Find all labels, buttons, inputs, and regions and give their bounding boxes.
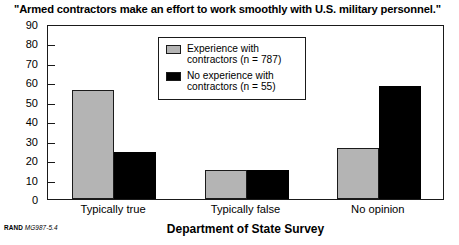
- bar: [114, 152, 156, 199]
- legend-label: Experience with contractors (n = 787): [187, 43, 281, 66]
- chart-title: "Armed contractors make an effort to wor…: [14, 3, 454, 15]
- legend-label: No experience with contractors (n = 55): [187, 70, 276, 93]
- bar: [337, 148, 379, 199]
- legend-swatch-gray-icon: [166, 45, 181, 54]
- y-axis: 0102030405060708090: [0, 25, 43, 200]
- figure-id: RAND MG987-5.4: [4, 224, 58, 231]
- y-tick-label: 90: [26, 20, 38, 31]
- rand-mark: RAND: [4, 224, 23, 231]
- x-axis-title: Department of State Survey: [47, 222, 444, 236]
- y-tick-label: 40: [26, 117, 38, 128]
- bar: [72, 90, 114, 199]
- x-tick-label: Typically false: [211, 203, 281, 215]
- y-tick-label: 0: [32, 195, 38, 206]
- y-tick-label: 50: [26, 97, 38, 108]
- legend-swatch-black-icon: [166, 72, 181, 81]
- x-tick-label: No opinion: [351, 203, 405, 215]
- bar: [205, 170, 247, 199]
- y-tick-label: 10: [26, 175, 38, 186]
- y-tick-label: 60: [26, 78, 38, 89]
- legend-label-line2: contractors (n = 55): [187, 81, 276, 92]
- legend-item: Experience with contractors (n = 787): [166, 43, 298, 66]
- bar: [379, 86, 421, 199]
- figure-number: MG987-5.4: [25, 224, 58, 231]
- legend-label-line1: No experience with: [187, 70, 274, 81]
- bar: [247, 170, 289, 199]
- y-tick-label: 20: [26, 156, 38, 167]
- legend: Experience with contractors (n = 787) No…: [158, 37, 306, 100]
- legend-label-line1: Experience with: [187, 43, 259, 54]
- figure-container: "Armed contractors make an effort to wor…: [0, 0, 459, 245]
- y-tick-label: 30: [26, 136, 38, 147]
- x-tick-label: Typically true: [81, 203, 146, 215]
- y-tick-label: 80: [26, 39, 38, 50]
- legend-item: No experience with contractors (n = 55): [166, 70, 298, 93]
- y-tick-label: 70: [26, 58, 38, 69]
- x-axis: Typically trueTypically falseNo opinion: [47, 203, 444, 219]
- legend-label-line2: contractors (n = 787): [187, 54, 281, 65]
